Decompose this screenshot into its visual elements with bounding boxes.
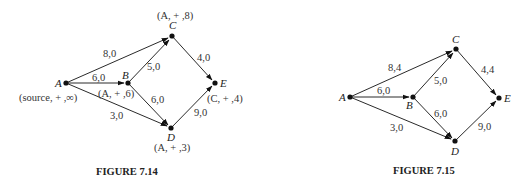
- edge-label-b-d: 6,0: [434, 108, 447, 119]
- edge-label-d-e: 9,0: [194, 107, 207, 118]
- node-label-d: (A, + ,3): [154, 142, 191, 154]
- edge-label-a-d: 3,0: [110, 110, 123, 121]
- network-flow-diagrams: 8,0 6,0 3,0 5,0 6,0 4,0 9,0 A B C D E (s…: [0, 0, 523, 182]
- node-e: [496, 95, 501, 100]
- node-label-a: (source, + ,∞): [19, 92, 78, 104]
- node-name-b: B: [122, 69, 129, 81]
- node-e: [212, 80, 217, 85]
- node-c: [453, 46, 458, 51]
- edge-label-b-c: 5,0: [147, 61, 160, 72]
- node-a: [347, 94, 352, 99]
- node-label-b: (A, + ,6): [98, 88, 135, 100]
- node-d: [452, 138, 457, 143]
- figure-caption: FIGURE 7.15: [393, 165, 455, 176]
- edge-label-d-e: 9,0: [478, 121, 491, 132]
- node-b: [125, 80, 130, 85]
- edge-label-b-d: 6,0: [151, 94, 164, 105]
- edge-label-a-d: 3,0: [390, 122, 403, 133]
- figure-7-14: 8,0 6,0 3,0 5,0 6,0 4,0 9,0 A B C D E (s…: [19, 10, 243, 177]
- node-name-a: A: [54, 77, 62, 89]
- figure-caption: FIGURE 7.14: [96, 166, 159, 177]
- node-name-d: D: [450, 145, 459, 157]
- node-name-e: E: [219, 77, 227, 89]
- edge-label-c-e: 4,0: [197, 52, 210, 63]
- node-a: [63, 80, 68, 85]
- node-name-c: C: [452, 33, 460, 45]
- node-name-e: E: [503, 92, 511, 104]
- node-name-b: B: [406, 99, 413, 111]
- node-label-c: (A, + ,8): [157, 10, 194, 22]
- figure-7-15: 8,4 6,0 3,0 5,0 6,0 4,4 9,0 A B C D E FI…: [338, 33, 511, 176]
- edge-label-a-c: 8,4: [388, 62, 402, 73]
- edge-label-b-c: 5,0: [434, 75, 447, 86]
- edge-label-a-b: 6,0: [377, 85, 390, 96]
- edge-label-a-b: 6,0: [92, 72, 105, 83]
- node-label-e: (C, + ,4): [207, 93, 243, 105]
- edge-label-a-c: 8,0: [103, 48, 116, 59]
- node-d: [168, 125, 173, 130]
- edge-label-c-e: 4,4: [481, 64, 495, 75]
- node-c: [169, 33, 174, 38]
- node-name-a: A: [338, 91, 346, 103]
- edge-a-c: [350, 51, 452, 97]
